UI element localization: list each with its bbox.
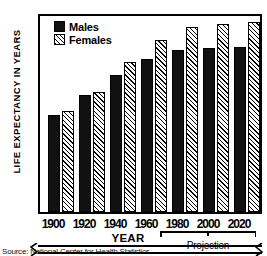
bar-males-1960 <box>141 59 153 212</box>
bar-females-2020 <box>248 22 260 212</box>
projection-bracket-icon <box>158 231 258 240</box>
y-axis-title: LIFE EXPECTANCY IN YEARS <box>11 17 22 187</box>
legend-swatch-females-icon <box>54 34 65 45</box>
projection-annotation: Projection <box>158 231 258 251</box>
bar-males-1900 <box>48 115 60 212</box>
legend-item-females: Females <box>54 33 112 46</box>
bar-males-1940 <box>110 75 122 212</box>
bar-females-1960 <box>155 40 167 212</box>
legend: Males Females <box>54 20 112 46</box>
source-note: Source: National Center for Health Stati… <box>2 247 150 256</box>
legend-label-males: Males <box>69 21 99 33</box>
bar-males-2000 <box>203 48 215 212</box>
bar-females-1940 <box>124 62 136 213</box>
bar-females-2000 <box>217 24 229 212</box>
bar-females-1900 <box>62 111 74 212</box>
legend-label-females: Females <box>69 34 112 46</box>
legend-item-males: Males <box>54 20 112 33</box>
life-expectancy-bar-chart: LIFE EXPECTANCY IN YEARS 80 70 60 50 40 … <box>0 0 267 256</box>
projection-label: Projection <box>158 240 258 251</box>
plot-area: Males Females <box>38 14 262 214</box>
bar-males-1920 <box>79 95 91 212</box>
bar-males-1980 <box>172 50 184 212</box>
bar-females-1920 <box>93 92 105 212</box>
bar-males-2020 <box>234 47 246 212</box>
legend-swatch-males-icon <box>54 21 65 32</box>
bar-females-1980 <box>186 27 198 212</box>
x-axis-title: YEAR <box>98 232 158 244</box>
x-tick-label-2020: 2020 <box>219 217 259 231</box>
